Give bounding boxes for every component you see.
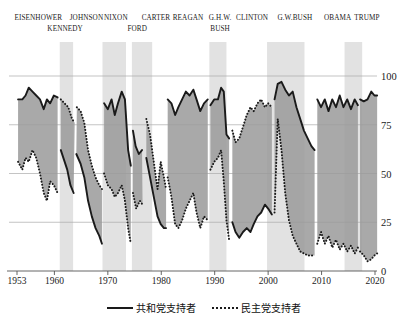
- dotted-line-swatch-icon: [212, 307, 238, 309]
- x-tick-label: 1953: [8, 276, 27, 286]
- x-tick-label: 1960: [45, 276, 64, 286]
- gap-fill: [317, 96, 358, 254]
- chart-legend: 共和党支持者 民主党支持者: [0, 300, 407, 315]
- x-tick-label: 1970: [98, 276, 117, 286]
- gap-fill: [232, 99, 272, 237]
- x-tick-label: 1990: [205, 276, 224, 286]
- gap-fill: [360, 92, 377, 262]
- legend-label-democrat: 民主党支持者: [241, 300, 301, 315]
- y-tick-label: 25: [381, 217, 392, 228]
- x-tick-label: 2010: [312, 276, 331, 286]
- y-tick-label: 75: [381, 119, 392, 130]
- approval-rating-chart: EISENHOWERKENNEDYJOHNSONNIXONFORDCARTERR…: [0, 0, 407, 326]
- axes: [7, 271, 377, 275]
- y-tick-label: 50: [381, 168, 392, 179]
- gap-fill: [76, 107, 102, 244]
- legend-item-republican: 共和党支持者: [107, 300, 196, 315]
- legend-item-democrat: 民主党支持者: [212, 300, 301, 315]
- solid-line-swatch-icon: [107, 307, 133, 309]
- y-tick-label: 0: [381, 266, 386, 277]
- x-tick-label: 2020: [366, 276, 385, 286]
- y-tick-label: 100: [381, 71, 397, 82]
- x-tick-label: 1980: [152, 276, 171, 286]
- legend-label-republican: 共和党支持者: [136, 300, 196, 315]
- x-tick-label: 2000: [259, 276, 278, 286]
